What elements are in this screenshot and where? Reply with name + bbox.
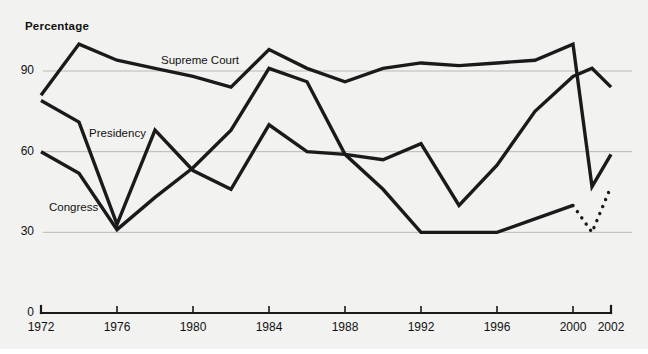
chart-plot-area [0,0,648,354]
x-tick-label: 1996 [473,320,521,334]
x-tick-label: 1972 [17,320,65,334]
x-tick-label: 1984 [245,320,293,334]
x-tick-label: 1976 [93,320,141,334]
y-tick-label: 90 [8,63,34,77]
x-tick-label: 1992 [397,320,445,334]
x-tick-label: 1988 [321,320,369,334]
x-tick-label: 2002 [587,320,635,334]
series-label-supreme-court: Supreme Court [161,54,239,66]
series-line-congress-projected [573,187,611,233]
series-label-congress: Congress [49,201,98,213]
x-tick-label: 1980 [169,320,217,334]
series-label-presidency: Presidency [89,127,146,139]
y-tick-label: 30 [8,224,34,238]
y-tick-label: 0 [8,305,34,319]
gridlines [43,71,632,232]
chart-figure: Percentage 0306090 197219761980198419881… [0,0,648,354]
series-line-presidency [41,68,611,224]
y-tick-label: 60 [8,144,34,158]
